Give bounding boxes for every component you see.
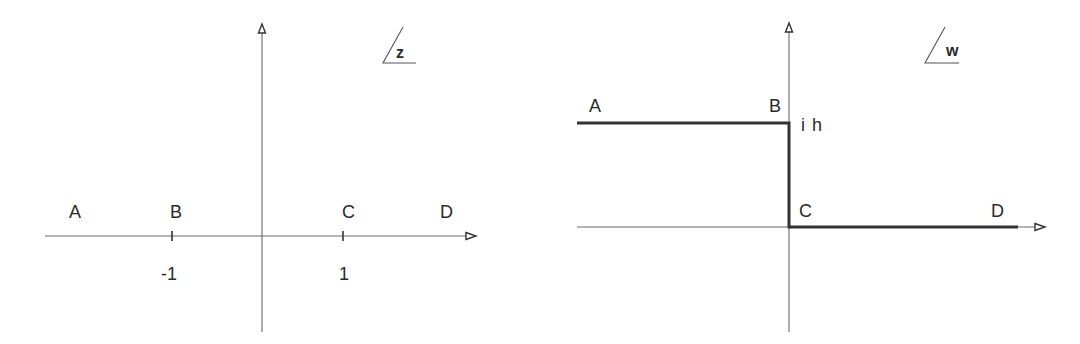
conformal-map-diagram: A B C D -1 1 z A B C D i h w xyxy=(0,0,1080,344)
z-imag-axis-arrow-icon xyxy=(259,24,266,33)
w-boundary-step xyxy=(577,123,1018,227)
w-plane-panel: A B C D i h w xyxy=(577,23,1045,332)
w-point-d-label: D xyxy=(991,201,1004,221)
z-point-b-label: B xyxy=(170,202,182,222)
w-point-b-label: B xyxy=(769,96,781,116)
z-plane-label: z xyxy=(396,44,404,61)
z-point-d-label: D xyxy=(440,202,453,222)
w-plane-label: w xyxy=(945,42,959,59)
w-point-a-label: A xyxy=(589,96,601,116)
height-label-ih: i h xyxy=(801,115,823,135)
w-imag-axis-arrow-icon xyxy=(786,23,793,32)
z-point-c-label: C xyxy=(342,202,355,222)
z-plane-panel: A B C D -1 1 z xyxy=(45,24,476,332)
z-real-axis-arrow-icon xyxy=(466,233,476,240)
tick-label-plus-one: 1 xyxy=(339,264,349,284)
z-point-a-label: A xyxy=(69,202,81,222)
tick-label-minus-one: -1 xyxy=(161,264,177,284)
w-point-c-label: C xyxy=(799,201,812,221)
w-real-axis-arrow-icon xyxy=(1035,224,1045,231)
